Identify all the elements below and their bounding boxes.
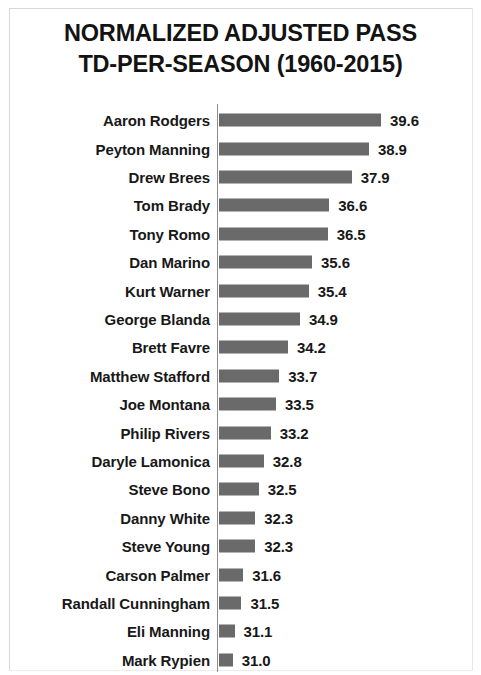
bar [219,596,241,609]
bar-value-label: 33.5 [285,396,314,413]
bar-row: Dan Marino35.6 [0,248,481,276]
bar-value-label: 31.0 [242,651,271,668]
category-label: Dan Marino [10,254,210,271]
bar [219,568,243,581]
chart-title-line-2: TD-PER-SEASON (1960-2015) [0,49,481,80]
bar-row: Steve Young32.3 [0,532,481,560]
category-label: Drew Brees [10,168,210,185]
bar-value-label: 35.4 [318,282,347,299]
category-label: Brett Favre [10,339,210,356]
bar-value-label: 34.2 [297,339,326,356]
bar [219,426,271,439]
bar [219,540,255,553]
chart-title: NORMALIZED ADJUSTED PASS TD-PER-SEASON (… [0,18,481,80]
category-label: George Blanda [10,310,210,327]
bar [219,114,381,127]
bar-value-label: 33.2 [280,424,309,441]
bar-value-label: 33.7 [288,367,317,384]
category-label: Mark Rypien [10,651,210,668]
chart-page: NORMALIZED ADJUSTED PASS TD-PER-SEASON (… [0,0,481,675]
bar [219,199,329,212]
chart-title-line-1: NORMALIZED ADJUSTED PASS [0,18,481,49]
bar-row: Peyton Manning38.9 [0,134,481,162]
bar-row: Drew Brees37.9 [0,163,481,191]
bar [219,284,309,297]
bar [219,227,328,240]
bar [219,625,235,638]
bar-value-label: 38.9 [378,140,407,157]
category-label: Philip Rivers [10,424,210,441]
category-label: Joe Montana [10,396,210,413]
bar-value-label: 36.5 [337,225,366,242]
bar-row: Steve Bono32.5 [0,475,481,503]
bar-row: Daryle Lamonica32.8 [0,447,481,475]
bar-row: Tony Romo36.5 [0,220,481,248]
category-label: Daryle Lamonica [10,452,210,469]
bar [219,511,255,524]
bar [219,369,279,382]
bar-row: Carson Palmer31.6 [0,560,481,588]
category-label: Eli Manning [10,623,210,640]
bar [219,454,264,467]
bar [219,398,276,411]
bar [219,142,369,155]
category-label: Randall Cunningham [10,594,210,611]
bar-row: Brett Favre34.2 [0,333,481,361]
bar-row: Danny White32.3 [0,504,481,532]
bar [219,170,352,183]
bar-row: Mark Rypien31.0 [0,646,481,674]
bar-chart-plot-area: Aaron Rodgers39.6Peyton Manning38.9Drew … [0,104,481,674]
bar-row: Tom Brady36.6 [0,191,481,219]
bar-value-label: 32.5 [268,481,297,498]
bar [219,341,288,354]
bar [219,256,312,269]
bar-value-label: 37.9 [361,168,390,185]
bar-row: Aaron Rodgers39.6 [0,106,481,134]
bar-row: Joe Montana33.5 [0,390,481,418]
bar-value-label: 32.3 [264,538,293,555]
bar-value-label: 31.5 [250,594,279,611]
category-label: Kurt Warner [10,282,210,299]
category-label: Tom Brady [10,197,210,214]
bar-row: Matthew Stafford33.7 [0,362,481,390]
bar-value-label: 32.3 [264,509,293,526]
bar-value-label: 31.1 [244,623,273,640]
bar-value-label: 34.9 [309,310,338,327]
bar-row: Randall Cunningham31.5 [0,589,481,617]
bar-row: Philip Rivers33.2 [0,418,481,446]
bar-value-label: 36.6 [338,197,367,214]
bar-value-label: 32.8 [273,452,302,469]
bar-value-label: 39.6 [390,112,419,129]
category-label: Peyton Manning [10,140,210,157]
category-label: Danny White [10,509,210,526]
category-label: Matthew Stafford [10,367,210,384]
bar-row: Kurt Warner35.4 [0,276,481,304]
bar-row: Eli Manning31.1 [0,617,481,645]
bar-value-label: 35.6 [321,254,350,271]
category-label: Tony Romo [10,225,210,242]
bar [219,312,300,325]
category-label: Carson Palmer [10,566,210,583]
bar-value-label: 31.6 [252,566,281,583]
category-label: Steve Young [10,538,210,555]
category-label: Aaron Rodgers [10,112,210,129]
category-label: Steve Bono [10,481,210,498]
bar [219,653,233,666]
bar-row: George Blanda34.9 [0,305,481,333]
bar [219,483,259,496]
